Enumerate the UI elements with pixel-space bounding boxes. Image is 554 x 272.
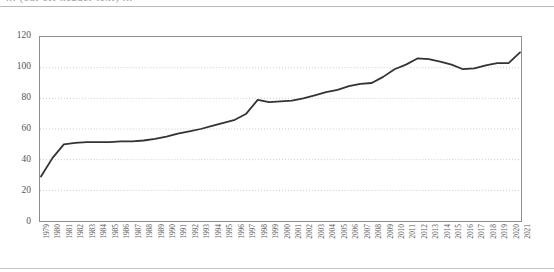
x-tick-label: 1987 xyxy=(135,224,142,239)
x-tick-label: 2004 xyxy=(329,224,336,239)
x-tick-label-text: 1985 xyxy=(112,224,119,239)
x-tick-label: 2001 xyxy=(295,224,302,239)
y-tick-label: 120 xyxy=(17,31,31,41)
x-tick-label: 1984 xyxy=(100,224,107,239)
x-tick-label-text: 2018 xyxy=(490,224,497,239)
x-tick-label-text: 2012 xyxy=(421,224,428,239)
y-tick-label: 20 xyxy=(22,186,32,196)
x-tick-label: 1983 xyxy=(89,224,96,239)
x-tick-label-text: 1993 xyxy=(203,224,210,239)
x-tick-label-text: 1981 xyxy=(66,224,73,239)
x-tick-label: 1991 xyxy=(180,224,187,239)
x-tick-label: 2017 xyxy=(478,224,485,239)
x-tick-label: 2009 xyxy=(387,224,394,239)
x-tick-label-text: 2021 xyxy=(524,224,531,239)
x-tick-label: 2010 xyxy=(398,224,405,239)
y-tick-label: 80 xyxy=(22,93,32,103)
x-tick-label: 2008 xyxy=(375,224,382,239)
x-tick-label: 2002 xyxy=(306,224,313,239)
x-tick-label: 1979 xyxy=(43,224,50,239)
x-tick-label: 1981 xyxy=(66,224,73,239)
chart-figure: ... (cut off header text) ... 0204060801… xyxy=(0,0,554,272)
x-tick-label-text: 1991 xyxy=(180,224,187,239)
x-tick-label-text: 2006 xyxy=(352,224,359,239)
y-tick-label: 0 xyxy=(26,217,31,227)
x-tick-label-text: 2013 xyxy=(432,224,439,239)
x-tick-label-text: 2010 xyxy=(398,224,405,239)
plot-area xyxy=(39,36,522,222)
x-tick-label: 1992 xyxy=(192,224,199,239)
x-tick-label-text: 2016 xyxy=(467,224,474,239)
x-tick-label-text: 2017 xyxy=(478,224,485,239)
y-tick-label: 40 xyxy=(22,155,32,165)
x-tick-label-text: 2008 xyxy=(375,224,382,239)
x-tick-label-text: 2002 xyxy=(306,224,313,239)
y-axis: 020406080100120 xyxy=(0,36,37,222)
x-tick-label: 2020 xyxy=(513,224,520,239)
x-tick-label: 1989 xyxy=(158,224,165,239)
x-tick-label: 1988 xyxy=(146,224,153,239)
x-tick-label-text: 1979 xyxy=(43,224,50,239)
x-tick-label-text: 1984 xyxy=(100,224,107,239)
x-tick-label: 2005 xyxy=(341,224,348,239)
clipped-header-text: ... (cut off header text) ... xyxy=(6,0,133,3)
x-tick-label-text: 1989 xyxy=(158,224,165,239)
x-tick-label-text: 1986 xyxy=(123,224,130,239)
x-tick-label-text: 2000 xyxy=(284,224,291,239)
x-tick-label: 2015 xyxy=(455,224,462,239)
line-series xyxy=(40,37,521,221)
x-tick-label-text: 2019 xyxy=(501,224,508,239)
x-tick-label-text: 2015 xyxy=(455,224,462,239)
x-tick-label-text: 1998 xyxy=(261,224,268,239)
x-tick-label: 1982 xyxy=(77,224,84,239)
x-tick-label: 2000 xyxy=(284,224,291,239)
x-tick-label: 2021 xyxy=(524,224,531,239)
x-tick-label: 1996 xyxy=(238,224,245,239)
x-tick-label-text: 2001 xyxy=(295,224,302,239)
x-tick-label: 2007 xyxy=(364,224,371,239)
x-tick-label-text: 1990 xyxy=(169,224,176,239)
x-tick-label: 1985 xyxy=(112,224,119,239)
x-tick-label-text: 2014 xyxy=(444,224,451,239)
x-tick-label: 1994 xyxy=(215,224,222,239)
footer-divider xyxy=(0,268,554,269)
x-tick-label: 2014 xyxy=(444,224,451,239)
x-tick-label: 2013 xyxy=(432,224,439,239)
x-tick-label-text: 2020 xyxy=(513,224,520,239)
x-tick-label: 1990 xyxy=(169,224,176,239)
x-tick-label: 1999 xyxy=(272,224,279,239)
x-tick-label-text: 2009 xyxy=(387,224,394,239)
header-divider xyxy=(0,6,554,7)
x-axis: 1979198019811982198319841985198619871988… xyxy=(39,224,522,268)
y-tick-label: 60 xyxy=(22,124,32,134)
x-tick-label-text: 1995 xyxy=(226,224,233,239)
x-tick-label-text: 1980 xyxy=(54,224,61,239)
x-tick-label: 2003 xyxy=(318,224,325,239)
x-tick-label: 1997 xyxy=(249,224,256,239)
x-tick-label: 2016 xyxy=(467,224,474,239)
x-tick-label-text: 2005 xyxy=(341,224,348,239)
x-tick-label-text: 1997 xyxy=(249,224,256,239)
x-tick-label-text: 1982 xyxy=(77,224,84,239)
y-tick-label: 100 xyxy=(17,62,31,72)
x-tick-label: 1986 xyxy=(123,224,130,239)
x-tick-label-text: 1983 xyxy=(89,224,96,239)
x-tick-label-text: 2003 xyxy=(318,224,325,239)
x-tick-label: 2019 xyxy=(501,224,508,239)
x-tick-label-text: 1994 xyxy=(215,224,222,239)
x-tick-label: 2006 xyxy=(352,224,359,239)
x-tick-label: 1998 xyxy=(261,224,268,239)
x-tick-label: 2012 xyxy=(421,224,428,239)
x-tick-label-text: 1996 xyxy=(238,224,245,239)
x-tick-label: 2018 xyxy=(490,224,497,239)
data-line xyxy=(41,52,520,176)
x-tick-label: 1995 xyxy=(226,224,233,239)
x-tick-label-text: 2004 xyxy=(329,224,336,239)
x-tick-label: 2011 xyxy=(409,224,416,239)
x-tick-label-text: 1987 xyxy=(135,224,142,239)
x-tick-label-text: 1999 xyxy=(272,224,279,239)
x-tick-label-text: 2011 xyxy=(409,224,416,239)
x-tick-label: 1980 xyxy=(54,224,61,239)
x-tick-label-text: 1992 xyxy=(192,224,199,239)
x-tick-label: 1993 xyxy=(203,224,210,239)
